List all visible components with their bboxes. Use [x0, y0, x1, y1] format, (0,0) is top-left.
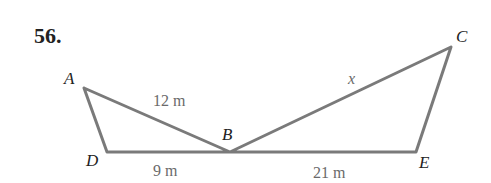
triangles-outline	[84, 47, 451, 152]
vertex-label-c: C	[456, 27, 468, 46]
vertex-label-a: A	[63, 69, 75, 88]
segment-label-bc: x	[347, 70, 355, 87]
segment-label-db: 9 m	[153, 162, 178, 179]
segment-label-be: 21 m	[313, 164, 346, 181]
similar-triangles-diagram: 56. A D B E C 12 m 9 m 21 m x	[0, 0, 491, 183]
problem-number: 56.	[34, 23, 62, 48]
segment-label-ab: 12 m	[153, 92, 186, 109]
vertex-label-e: E	[418, 153, 430, 172]
vertex-label-d: D	[85, 151, 99, 170]
vertex-label-b: B	[222, 125, 233, 144]
